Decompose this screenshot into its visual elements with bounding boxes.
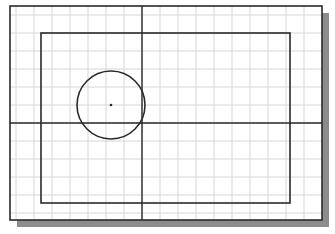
circle-center-point [110,104,113,107]
sheet-background [10,6,322,220]
drawing-canvas[interactable] [0,0,335,234]
